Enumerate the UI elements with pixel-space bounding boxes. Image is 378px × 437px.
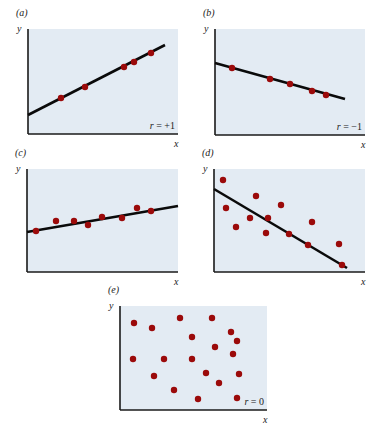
y-axis-label: y (203, 23, 209, 34)
correlation-scatter-figure: (a)yxr = +1(b)yxr = −1(c)yx(d)yx(e)yxr =… (0, 0, 378, 437)
data-point (85, 222, 91, 228)
y-axis-label: y (15, 163, 21, 174)
panel-title: (d) (202, 147, 214, 159)
data-point (189, 334, 195, 340)
y-axis-label: y (108, 300, 114, 311)
data-point (171, 387, 177, 393)
data-point (247, 215, 253, 221)
data-point (53, 218, 59, 224)
x-axis-label: x (360, 139, 366, 150)
data-point (220, 177, 226, 183)
data-point (309, 88, 315, 94)
data-point (267, 76, 273, 82)
data-point (131, 320, 137, 326)
data-point (71, 218, 77, 224)
data-point (121, 64, 127, 70)
x-axis-label: x (173, 138, 179, 149)
panel-title: (c) (15, 147, 27, 159)
data-point (336, 241, 342, 247)
data-point (134, 205, 140, 211)
data-point (212, 344, 218, 350)
data-point (309, 219, 315, 225)
data-point (287, 81, 293, 87)
data-point (265, 215, 271, 221)
data-point (305, 242, 311, 248)
data-point (33, 228, 39, 234)
data-point (177, 315, 183, 321)
data-point (209, 315, 215, 321)
panel-b: (b)yxr = −1 (203, 7, 366, 150)
data-point (99, 214, 105, 220)
data-point (148, 208, 154, 214)
data-point (234, 338, 240, 344)
correlation-annotation: r = −1 (337, 121, 362, 132)
data-point (82, 84, 88, 90)
x-axis-label: x (262, 414, 268, 425)
data-point (189, 356, 195, 362)
data-point (230, 351, 236, 357)
data-point (223, 205, 229, 211)
y-axis-label: y (202, 163, 208, 174)
panel-a: (a)yxr = +1 (16, 7, 179, 149)
data-point (278, 202, 284, 208)
x-axis-label: x (360, 276, 366, 287)
panel-title: (e) (108, 284, 120, 296)
plot-area (214, 169, 365, 272)
data-point (148, 50, 154, 56)
y-axis-label: y (16, 23, 22, 34)
data-point (58, 95, 64, 101)
x-axis-label: x (173, 276, 179, 287)
plot-area (27, 169, 178, 272)
data-point (263, 230, 269, 236)
data-point (161, 356, 167, 362)
data-point (236, 371, 242, 377)
data-point (228, 329, 234, 335)
panel-c: (c)yx (15, 147, 179, 287)
panel-title: (b) (203, 7, 215, 19)
correlation-annotation: r = 0 (244, 396, 264, 407)
data-point (195, 396, 201, 402)
panel-e: (e)yxr = 0 (108, 284, 268, 425)
data-point (286, 231, 292, 237)
data-point (229, 65, 235, 71)
data-point (234, 395, 240, 401)
data-point (151, 373, 157, 379)
data-point (131, 59, 137, 65)
plot-area (28, 29, 178, 134)
data-point (323, 92, 329, 98)
data-point (216, 380, 222, 386)
data-point (203, 370, 209, 376)
panel-title: (a) (16, 7, 28, 19)
data-point (233, 224, 239, 230)
data-point (119, 215, 125, 221)
data-point (130, 356, 136, 362)
data-point (149, 325, 155, 331)
data-point (339, 262, 345, 268)
correlation-annotation: r = +1 (150, 120, 175, 131)
panel-d: (d)yx (202, 147, 366, 287)
data-point (253, 193, 259, 199)
